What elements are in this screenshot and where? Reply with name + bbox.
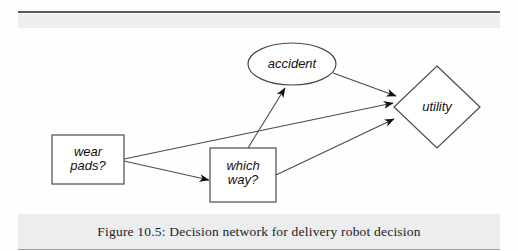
node-accident[interactable] xyxy=(248,43,336,85)
node-wear-pads[interactable] xyxy=(52,135,124,184)
edge-which-way-to-utility xyxy=(276,119,394,175)
node-which-way[interactable] xyxy=(210,148,276,202)
caption-underline-rule xyxy=(18,249,500,250)
node-layer xyxy=(52,43,480,202)
edge-accident-to-utility xyxy=(333,73,396,96)
edge-which-way-to-accident xyxy=(248,88,285,148)
edge-wear-pads-to-which-way xyxy=(124,161,209,180)
figure-caption: Figure 10.5: Decision network for delive… xyxy=(18,224,500,240)
figure-page: wear pads? which way? accident utility F… xyxy=(0,0,518,251)
node-utility[interactable] xyxy=(394,66,480,148)
